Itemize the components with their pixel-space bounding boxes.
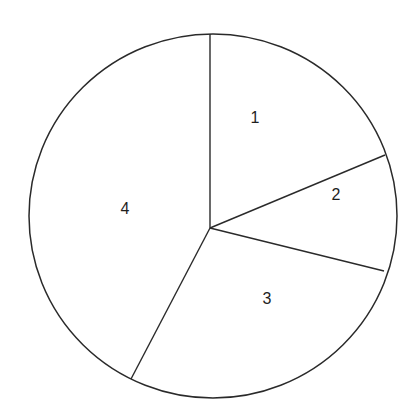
pie-chart: 1 2 3 4 [0,0,415,417]
slice-label-2: 2 [332,186,341,203]
slice-label-1: 1 [251,109,260,126]
pie-outline [29,34,397,398]
slice-label-3: 3 [263,290,272,307]
slice-label-4: 4 [121,200,130,217]
